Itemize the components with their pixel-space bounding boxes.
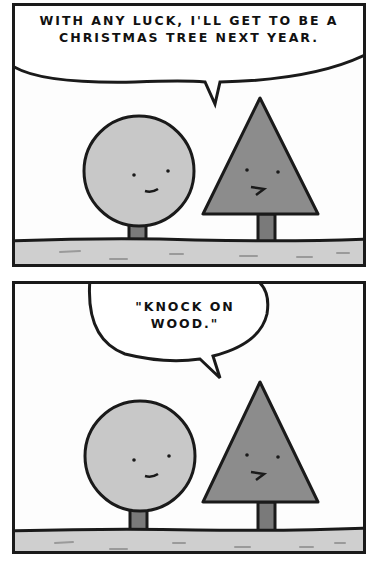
speech-text: "KNOCK ON WOOD." [115, 298, 255, 332]
comic-panel-1: WITH ANY LUCK, I'LL GET TO BE A CHRISTMA… [12, 3, 366, 267]
speech-text: WITH ANY LUCK, I'LL GET TO BE A CHRISTMA… [23, 12, 355, 46]
triangle-tree-trunk [258, 502, 275, 532]
comic-panel-2: "KNOCK ON WOOD." [12, 281, 366, 554]
round-tree-crown [84, 116, 194, 226]
triangle-tree-crown [203, 382, 318, 502]
triangle-tree-trunk [258, 214, 275, 242]
triangle-tree-crown [203, 98, 318, 214]
round-tree-crown [85, 401, 195, 511]
